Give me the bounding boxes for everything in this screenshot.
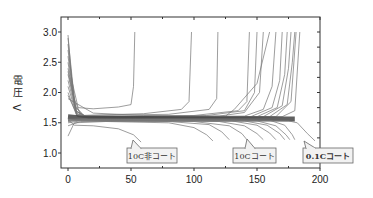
callout: 10C非コート [127,140,177,163]
series-charge-11 [68,32,291,118]
callout: 0.1Cコート [303,141,353,163]
y-tick-label: 1.0 [43,148,57,159]
callout-pointer [131,140,141,149]
x-tick-label: 50 [125,174,137,185]
series-discharge-0.1C [68,119,315,141]
series-charge-13 [68,32,296,118]
callout-pointer [245,139,255,149]
callout: 10Cコート [233,139,276,163]
x-axis: 050100150200 [65,17,329,185]
y-tick-label: 2.0 [43,87,57,98]
callout-label: 10Cコート [234,152,274,161]
series-plateau-band [68,117,295,119]
series-discharge-7 [68,120,285,140]
voltage-chart: 1.01.52.02.53.0 050100150200 10C非コート10Cコ… [0,0,373,198]
x-tick-label: 100 [186,174,203,185]
series-charge-3 [68,32,218,116]
series-discharge-3 [68,122,229,140]
y-axis: 1.01.52.02.53.0 [43,27,320,159]
annotations: 10C非コート10Cコート0.1Cコート [127,139,353,163]
y-tick-label: 1.5 [43,117,57,128]
x-tick-label: 0 [65,174,71,185]
series-charge-2 [68,32,192,116]
series-charge-6 [68,32,263,117]
callout-label: 0.1Cコート [306,151,350,161]
series-charge-4 [68,32,249,117]
y-tick-label: 2.5 [43,57,57,68]
callout-label: 10C非コート [128,151,176,161]
series-charge-7 [68,32,270,117]
y-tick-label: 3.0 [43,27,57,38]
series-charge-5 [68,32,257,117]
callout-pointer [304,141,316,149]
series-discharge-2 [68,122,213,141]
x-tick-label: 150 [249,174,266,185]
x-tick-label: 200 [312,174,329,185]
series-charge-1 [68,32,135,109]
y-axis-label: 電圧 V [9,75,23,116]
voltage-curves [68,32,315,142]
series-discharge-1 [68,120,141,142]
series-charge-10 [68,32,287,118]
series-charge-8 [68,32,276,117]
series-discharge-5 [68,120,263,139]
plot-frame [61,17,320,168]
series-discharge-8 [68,120,290,140]
y-axis-label-text: 電圧 V [10,75,22,113]
series-discharge-4 [68,121,247,140]
